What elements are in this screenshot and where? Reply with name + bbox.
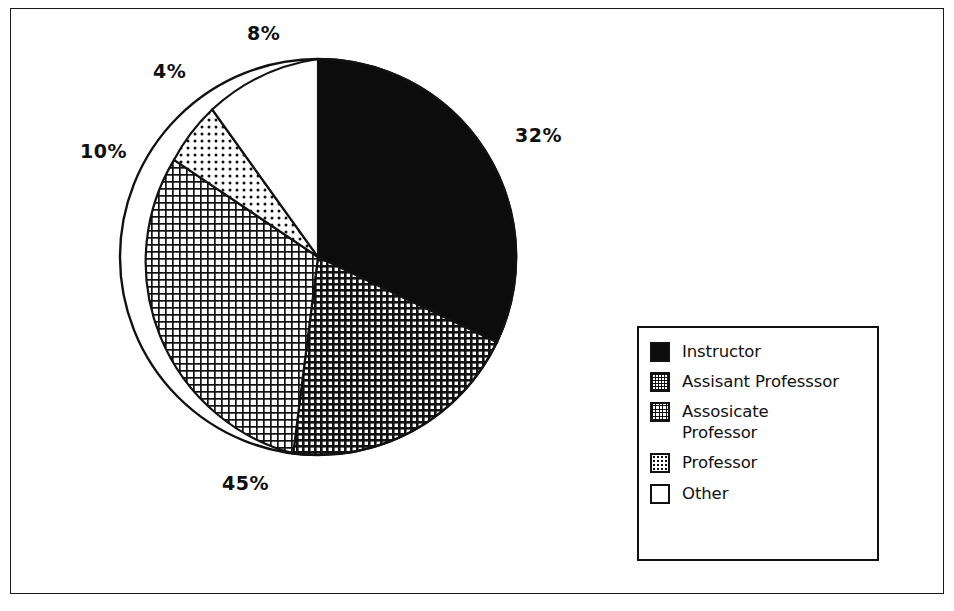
legend-item-associate-professor: Assosicate Professor bbox=[650, 401, 867, 443]
pie-svg bbox=[116, 55, 520, 459]
legend-swatch-icon bbox=[650, 453, 670, 473]
pie-chart bbox=[116, 55, 520, 459]
legend-item-assistant-professor: Assisant Professsor bbox=[650, 371, 867, 392]
legend-swatch-icon bbox=[650, 484, 670, 504]
legend-label: Other bbox=[682, 483, 728, 504]
legend-label: Professor bbox=[682, 452, 757, 473]
legend-label: Assisant Professsor bbox=[682, 371, 839, 392]
legend-label: Instructor bbox=[682, 341, 761, 362]
legend-item-instructor: Instructor bbox=[650, 341, 867, 362]
legend-item-other: Other bbox=[650, 483, 867, 504]
slice-label-associate-professor: 10% bbox=[80, 142, 127, 161]
slice-label-professor: 4% bbox=[153, 62, 186, 81]
legend-item-professor: Professor bbox=[650, 452, 867, 473]
pie-chart-figure: 8% 4% 10% 45% 32% Instructor Assisant Pr… bbox=[0, 0, 954, 611]
slice-label-instructor: 32% bbox=[515, 126, 562, 145]
slice-label-other: 8% bbox=[247, 24, 280, 43]
legend-label: Assosicate Professor bbox=[682, 401, 769, 443]
legend-swatch-icon bbox=[650, 372, 670, 392]
legend-swatch-icon bbox=[650, 342, 670, 362]
legend-swatch-icon bbox=[650, 402, 670, 422]
slice-label-assistant-professor: 45% bbox=[222, 474, 269, 493]
legend: Instructor Assisant Professsor Assosicat… bbox=[637, 326, 879, 561]
